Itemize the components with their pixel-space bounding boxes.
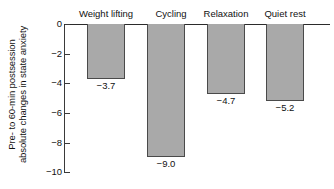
bar-value-label-weight-lifting: −3.7: [81, 80, 131, 91]
bar-quiet-rest[interactable]: [266, 24, 304, 101]
bar-category-label-cycling: Cycling: [142, 8, 200, 19]
bar-chart: Pre- to 60-min postsession absolute chan…: [0, 0, 334, 189]
bar-value-label-quiet-rest: −5.2: [260, 102, 310, 113]
bar-value-label-relaxation: −4.7: [201, 95, 251, 106]
bar-relaxation[interactable]: [207, 24, 245, 94]
bar-value-label-cycling: −9.0: [141, 158, 191, 169]
bar-category-label-quiet-rest: Quiet rest: [256, 8, 314, 19]
bar-category-label-relaxation: Relaxation: [197, 8, 255, 19]
bar-weight-lifting[interactable]: [87, 24, 125, 79]
bar-cycling[interactable]: [147, 24, 185, 157]
bar-category-label-weight-lifting: Weight lifting: [76, 8, 136, 19]
plot-area: Weight lifting Cycling Relaxation Quiet …: [0, 0, 334, 189]
